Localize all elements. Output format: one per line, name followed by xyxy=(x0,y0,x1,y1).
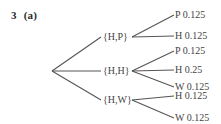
tree-leaf: H 0.125 xyxy=(175,91,207,101)
leaf-line xyxy=(132,100,174,118)
tree-leaf: H 0.125 xyxy=(175,31,207,41)
leaf-line xyxy=(132,15,174,37)
tree-leaf: H 0.25 xyxy=(175,65,202,75)
tree-leaf: P 0.125 xyxy=(175,46,205,56)
leaf-line xyxy=(132,36,174,37)
tree-node: {H,P} xyxy=(103,32,128,42)
tree-node: {H,W} xyxy=(103,95,132,105)
leaf-line xyxy=(132,70,174,71)
tree-leaf: W 0.125 xyxy=(175,113,209,123)
tree-leaf: P 0.125 xyxy=(175,10,205,20)
branch-line xyxy=(52,37,101,71)
leaf-line xyxy=(132,96,174,100)
tree-node: {H,H} xyxy=(103,66,130,76)
leaf-line xyxy=(132,71,174,87)
branch-line xyxy=(52,71,101,100)
leaf-line xyxy=(132,51,174,71)
